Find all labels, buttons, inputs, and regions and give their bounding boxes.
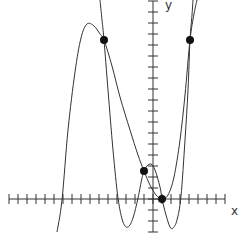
intersection-point xyxy=(100,36,108,44)
function-graph xyxy=(0,0,242,242)
y-axis-label: y xyxy=(165,0,172,12)
intersection-point xyxy=(140,167,148,175)
curve-2 xyxy=(100,0,193,229)
intersection-point xyxy=(186,36,194,44)
intersection-point xyxy=(158,195,166,203)
axes xyxy=(9,1,225,232)
curve-1 xyxy=(57,0,197,232)
x-axis-label: x xyxy=(231,204,238,218)
curves xyxy=(57,0,197,232)
